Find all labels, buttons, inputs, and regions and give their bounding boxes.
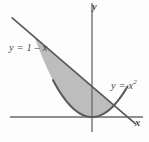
- parabola-equation-label: y = x2: [111, 79, 137, 91]
- x-axis-label: x: [135, 118, 140, 129]
- figure-container: y = 1 – x y = x2 y x: [0, 0, 149, 142]
- line-equation-label: y = 1 – x: [9, 43, 47, 54]
- parabola-label-base: y = x: [111, 80, 133, 91]
- graph-canvas: [0, 0, 149, 142]
- y-axis-label: y: [92, 2, 97, 13]
- parabola-label-exponent: 2: [133, 78, 137, 86]
